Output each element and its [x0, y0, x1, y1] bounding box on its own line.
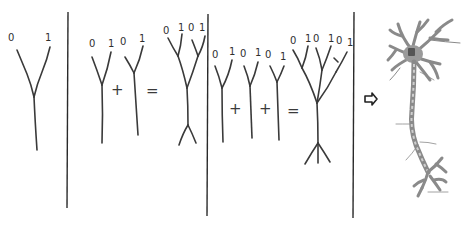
leaf-label: 0: [313, 33, 319, 44]
leaf-label: 0: [120, 36, 126, 47]
panel-3-result-tree: 0 1 0 1 0 1: [290, 33, 353, 164]
leaf-label: 1: [229, 46, 235, 57]
plus-operator: +: [259, 100, 272, 118]
leaf-label: 0: [265, 49, 271, 60]
leaf-label: 1: [305, 33, 311, 44]
panel-1-tree: 0 1: [8, 32, 51, 150]
divider-2: [207, 14, 208, 216]
leaf-label: 1: [199, 22, 205, 33]
panel-3-tree-a: 0 1: [212, 46, 235, 142]
branching-trees-diagram: 0 1 0 1 + 0 1 = 0 1 0 1 0 1: [0, 0, 465, 227]
divider-1: [67, 12, 68, 208]
leaf-label: 1: [347, 37, 353, 48]
equals-operator: =: [146, 82, 159, 100]
leaf-label: 1: [139, 33, 145, 44]
leaf-label: 1: [108, 38, 114, 49]
leaf-label: 1: [45, 32, 51, 43]
panel-2-result-tree: 0 1 0 1: [163, 22, 205, 145]
panel-3-tree-b: 0 1: [240, 47, 261, 138]
panel-3-tree-c: 0 1: [265, 49, 286, 140]
leaf-label: 1: [178, 22, 184, 33]
leaf-label: 0: [8, 32, 14, 43]
leaf-label: 1: [328, 33, 334, 44]
arrow-icon: [365, 93, 377, 105]
plus-operator: +: [229, 100, 242, 118]
leaf-label: 0: [290, 35, 296, 46]
leaf-label: 0: [212, 49, 218, 60]
equals-operator: =: [287, 102, 300, 120]
plus-operator: +: [111, 81, 124, 99]
neuron-illustration: [388, 20, 460, 196]
leaf-label: 1: [255, 47, 261, 58]
leaf-label: 0: [240, 48, 246, 59]
leaf-label: 0: [89, 38, 95, 49]
leaf-label: 0: [163, 25, 169, 36]
leaf-label: 1: [280, 51, 286, 62]
panel-2-tree-b: 0 1: [120, 33, 145, 135]
leaf-label: 0: [188, 22, 194, 33]
leaf-label: 0: [336, 35, 342, 46]
